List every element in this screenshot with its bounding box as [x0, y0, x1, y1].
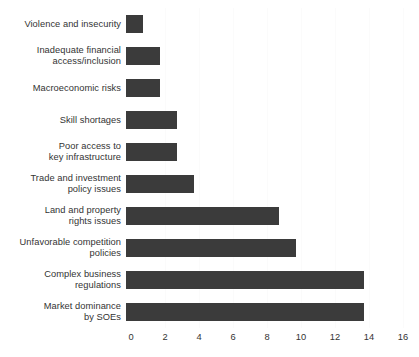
bar-row: Trade and investment policy issues [0, 168, 419, 200]
bar-cell [126, 264, 419, 296]
category-label: Macroeconomic risks [0, 83, 126, 94]
bar-cell [126, 232, 419, 264]
bar-cell [126, 296, 419, 328]
bar-row: Skill shortages [0, 104, 419, 136]
category-label: Land and property rights issues [0, 205, 126, 226]
bar [126, 271, 364, 289]
bar-cell [126, 168, 419, 200]
category-label: Violence and insecurity [0, 19, 126, 30]
bar [126, 15, 143, 33]
bar-row: Land and property rights issues [0, 200, 419, 232]
bar-row: Inadequate financial access/inclusion [0, 40, 419, 72]
x-tick-label: 12 [330, 331, 340, 343]
bar-chart: Violence and insecurityInadequate financ… [0, 0, 419, 357]
x-tick-label: 0 [128, 331, 133, 343]
x-axis: 0246810121416 [0, 331, 419, 351]
bar-row: Violence and insecurity [0, 8, 419, 40]
category-label: Skill shortages [0, 115, 126, 126]
bar-cell [126, 104, 419, 136]
bar [126, 111, 177, 129]
x-tick-label: 8 [264, 331, 269, 343]
x-tick-label: 6 [230, 331, 235, 343]
bar [126, 175, 194, 193]
bar [126, 47, 160, 65]
x-tick-label: 10 [296, 331, 306, 343]
bar [126, 207, 279, 225]
category-label: Complex business regulations [0, 269, 126, 290]
bar-row: Poor access to key infrastructure [0, 136, 419, 168]
x-tick-label: 16 [398, 331, 408, 343]
x-tick-label: 4 [196, 331, 201, 343]
bar [126, 143, 177, 161]
bar-cell [126, 40, 419, 72]
category-label: Market dominance by SOEs [0, 301, 126, 322]
bar [126, 79, 160, 97]
bar-row: Unfavorable competition policies [0, 232, 419, 264]
category-label: Poor access to key infrastructure [0, 141, 126, 162]
bar-cell [126, 136, 419, 168]
category-label: Unfavorable competition policies [0, 237, 126, 258]
category-label: Trade and investment policy issues [0, 173, 126, 194]
bar-row: Complex business regulations [0, 264, 419, 296]
bar [126, 303, 364, 321]
bar-row: Macroeconomic risks [0, 72, 419, 104]
x-tick-label: 2 [162, 331, 167, 343]
bar [126, 239, 296, 257]
bar-rows: Violence and insecurityInadequate financ… [0, 8, 419, 328]
category-label: Inadequate financial access/inclusion [0, 45, 126, 66]
x-tick-label: 14 [364, 331, 374, 343]
bar-cell [126, 200, 419, 232]
bar-cell [126, 72, 419, 104]
bar-cell [126, 8, 419, 40]
bar-row: Market dominance by SOEs [0, 296, 419, 328]
